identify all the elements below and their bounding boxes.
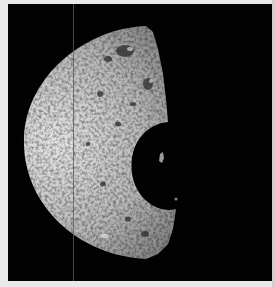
photo-frame (8, 4, 272, 281)
page-edge (272, 0, 275, 287)
moon-illustration (8, 4, 272, 281)
crater-central-peak (159, 152, 164, 163)
scan-line (73, 4, 74, 281)
